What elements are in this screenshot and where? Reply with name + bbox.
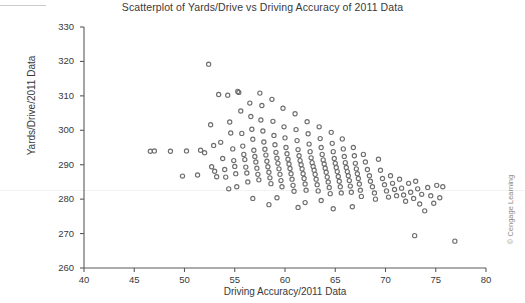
data-point: [321, 158, 325, 162]
data-point: [412, 196, 416, 200]
data-point: [409, 190, 413, 194]
data-point: [432, 201, 436, 205]
data-point: [388, 174, 392, 178]
data-point: [347, 178, 351, 182]
y-tick-label: 260: [40, 262, 74, 273]
data-point: [293, 112, 297, 116]
data-point: [250, 127, 254, 131]
data-point: [241, 144, 245, 148]
data-point: [390, 181, 394, 185]
data-point: [317, 125, 321, 129]
data-point: [246, 180, 250, 184]
data-point: [318, 136, 322, 140]
data-point: [298, 158, 302, 162]
data-point: [358, 188, 362, 192]
data-point: [314, 177, 318, 181]
data-point: [384, 189, 388, 193]
data-point: [309, 156, 313, 160]
data-point: [288, 166, 292, 170]
data-point: [284, 145, 288, 149]
data-point: [249, 114, 253, 118]
data-point: [407, 181, 411, 185]
data-point: [289, 172, 293, 176]
data-point: [251, 137, 255, 141]
data-point: [343, 161, 347, 165]
data-point: [404, 199, 408, 203]
data-point: [324, 170, 328, 174]
data-point: [209, 123, 213, 127]
data-point: [392, 187, 396, 191]
data-point: [210, 165, 214, 169]
data-point: [291, 183, 295, 187]
data-point: [365, 167, 369, 171]
data-point: [336, 174, 340, 178]
data-point: [278, 172, 282, 176]
data-point: [368, 179, 372, 183]
x-tick-label: 75: [421, 274, 451, 285]
data-point: [180, 174, 184, 178]
data-point: [325, 175, 329, 179]
data-point: [331, 207, 335, 211]
data-point: [237, 90, 241, 94]
y-tick-label: 310: [40, 90, 74, 101]
data-point: [342, 154, 346, 158]
data-point: [229, 131, 233, 135]
data-point: [198, 148, 202, 152]
data-point: [253, 154, 257, 158]
x-tick-label: 70: [371, 274, 401, 285]
x-tick-label: 55: [220, 274, 250, 285]
data-point: [320, 152, 324, 156]
y-tick-label: 280: [40, 193, 74, 204]
data-point: [341, 147, 345, 151]
data-point: [260, 103, 264, 107]
data-point: [301, 172, 305, 176]
data-point: [243, 157, 247, 161]
data-point: [221, 156, 225, 160]
data-point: [414, 179, 418, 183]
x-axis-label: Driving Accuracy/2011 Data: [84, 286, 486, 297]
data-point: [184, 149, 188, 153]
data-point: [295, 139, 299, 143]
data-point: [261, 129, 265, 133]
data-point: [423, 209, 427, 213]
data-point: [453, 239, 457, 243]
data-point: [296, 147, 300, 151]
data-point: [333, 161, 337, 165]
data-point: [294, 128, 298, 132]
data-point: [266, 165, 270, 169]
data-point: [273, 143, 277, 147]
data-point: [223, 167, 227, 171]
data-point: [359, 194, 363, 198]
data-point: [213, 169, 217, 173]
data-point: [339, 191, 343, 195]
data-point: [386, 195, 390, 199]
data-point: [376, 157, 380, 161]
data-point: [357, 182, 361, 186]
data-point: [372, 191, 376, 195]
data-point: [420, 192, 424, 196]
data-point: [286, 157, 290, 161]
data-point: [429, 194, 433, 198]
data-point: [397, 177, 401, 181]
data-point: [297, 154, 301, 158]
data-point: [316, 189, 320, 193]
data-point: [328, 192, 332, 196]
data-point: [252, 148, 256, 152]
data-point: [319, 198, 323, 202]
data-point: [303, 182, 307, 186]
y-axis-label: Yards/Drive/2011 Data: [26, 31, 37, 181]
y-tick-label: 290: [40, 159, 74, 170]
data-point: [361, 152, 365, 156]
data-point: [240, 131, 244, 135]
data-point: [345, 170, 349, 174]
data-point: [212, 143, 216, 147]
data-point: [350, 205, 354, 209]
data-point: [373, 197, 377, 201]
data-point: [340, 137, 344, 141]
data-point: [244, 165, 248, 169]
data-point: [258, 91, 262, 95]
data-point: [304, 188, 308, 192]
x-tick-label: 65: [320, 274, 350, 285]
data-point: [313, 172, 317, 176]
data-point: [382, 183, 386, 187]
